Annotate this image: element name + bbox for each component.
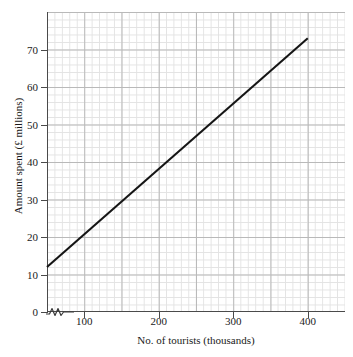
y-tick-label-70: 70 — [12, 45, 38, 56]
y-tick-70 — [41, 50, 48, 51]
y-tick-50 — [41, 125, 48, 126]
data-line-series — [47, 12, 345, 312]
page-top-bleed — [0, 0, 353, 9]
tourist-spending-figure: 0 10 20 30 40 50 60 70 100 200 300 400 A… — [0, 0, 353, 357]
y-tick-10 — [41, 275, 48, 276]
x-axis-break-zigzag — [46, 303, 74, 317]
y-tick-20 — [41, 237, 48, 238]
best-fit-line — [47, 38, 308, 267]
x-tick-label-200: 200 — [139, 316, 179, 327]
y-axis-title: Amount spent (£ millions) — [12, 71, 24, 241]
y-tick-40 — [41, 162, 48, 163]
x-axis-title: No. of tourists (thousands) — [47, 334, 345, 346]
x-tick-label-100: 100 — [64, 316, 104, 327]
y-tick-label-10: 10 — [12, 270, 38, 281]
y-tick-30 — [41, 200, 48, 201]
y-tick-label-0: 0 — [12, 307, 38, 318]
y-tick-60 — [41, 87, 48, 88]
x-tick-label-300: 300 — [213, 316, 253, 327]
x-tick-label-400: 400 — [288, 316, 328, 327]
